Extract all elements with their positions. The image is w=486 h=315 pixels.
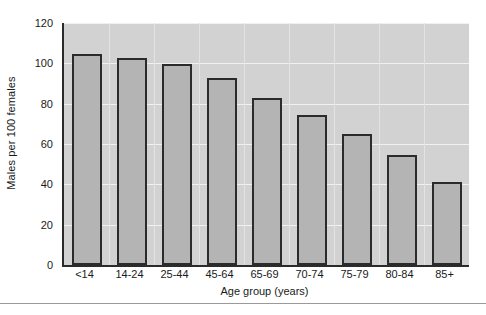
y-axis-title: Males per 100 females (0, 0, 22, 265)
bar (387, 155, 417, 265)
y-axis-tick-label: 120 (35, 17, 53, 29)
y-axis-tick-label: 40 (41, 178, 53, 190)
bar (162, 64, 192, 265)
y-axis-title-text: Males per 100 females (5, 76, 17, 189)
x-axis-tick-label: 75-79 (340, 268, 368, 280)
y-axis-tick-label: 100 (35, 57, 53, 69)
bar (432, 182, 462, 265)
plot-area (62, 23, 469, 267)
x-axis-tick-label: 85+ (435, 268, 454, 280)
x-axis-title: Age group (years) (62, 285, 467, 297)
footer-divider (0, 303, 486, 304)
bar (297, 115, 327, 265)
x-axis-tick-label: <14 (75, 268, 94, 280)
bar (207, 78, 237, 265)
bar (342, 134, 372, 265)
x-axis-tick-label: 14-24 (115, 268, 143, 280)
x-axis-tick-labels: <1414-2425-4445-6465-6970-7475-7980-8485… (62, 268, 467, 286)
y-axis-tick-label: 0 (47, 259, 53, 271)
x-axis-tick-label: 70-74 (295, 268, 323, 280)
x-axis-tick-label: 80-84 (385, 268, 413, 280)
x-axis-tick-label: 25-44 (160, 268, 188, 280)
y-axis-tick-labels: 020406080100120 (22, 0, 58, 315)
bar-chart-figure: Males per 100 females 020406080100120 <1… (0, 0, 486, 315)
y-axis-tick-label: 80 (41, 98, 53, 110)
bar (117, 58, 147, 265)
bar (72, 54, 102, 265)
x-axis-tick-label: 65-69 (250, 268, 278, 280)
y-axis-tick-label: 20 (41, 219, 53, 231)
bar-series (64, 23, 469, 265)
y-axis-tick-label: 60 (41, 138, 53, 150)
bar (252, 98, 282, 265)
x-axis-tick-label: 45-64 (205, 268, 233, 280)
